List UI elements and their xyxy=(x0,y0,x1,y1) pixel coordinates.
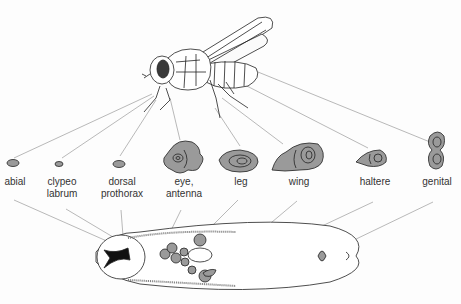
label-clypeolabrum: clypeo labrum xyxy=(44,176,80,200)
label-clypeolabrum-line2: labrum xyxy=(44,188,80,200)
genital-disc xyxy=(428,132,444,169)
larva-illustration xyxy=(96,222,359,289)
label-dorsal-prothorax: dorsal prothorax xyxy=(98,176,146,200)
haltere-disc xyxy=(356,150,386,167)
label-eye-antenna-line2: antenna xyxy=(162,188,206,200)
label-wing: wing xyxy=(282,176,316,188)
label-eye-antenna: eye, antenna xyxy=(162,176,206,200)
label-clypeolabrum-line1: clypeo xyxy=(44,176,80,188)
clypeolabrum-disc xyxy=(55,162,63,167)
label-haltere: haltere xyxy=(352,176,398,188)
label-labial: abial xyxy=(0,176,30,188)
dorsal-prothorax-disc xyxy=(113,161,125,168)
wing-disc xyxy=(272,143,323,171)
adult-fly-illustration xyxy=(142,17,273,118)
imaginal-discs xyxy=(7,132,445,173)
diagram-canvas: abial clypeo labrum dorsal prothorax eye… xyxy=(0,0,461,304)
label-dorsal-prothorax-line2: prothorax xyxy=(98,188,146,200)
labial-disc xyxy=(7,160,19,167)
label-wing-line1: wing xyxy=(282,176,316,188)
label-haltere-line1: haltere xyxy=(352,176,398,188)
label-genital-line1: genital xyxy=(414,176,460,188)
label-genital: genital xyxy=(414,176,460,188)
label-labial-line1: abial xyxy=(0,176,30,188)
label-dorsal-prothorax-line1: dorsal xyxy=(98,176,146,188)
eye-antenna-disc xyxy=(164,141,203,173)
label-leg: leg xyxy=(226,176,256,188)
label-leg-line1: leg xyxy=(226,176,256,188)
imaginal-disc-diagram xyxy=(0,0,461,304)
leg-disc xyxy=(219,150,258,172)
label-eye-antenna-line1: eye, xyxy=(162,176,206,188)
